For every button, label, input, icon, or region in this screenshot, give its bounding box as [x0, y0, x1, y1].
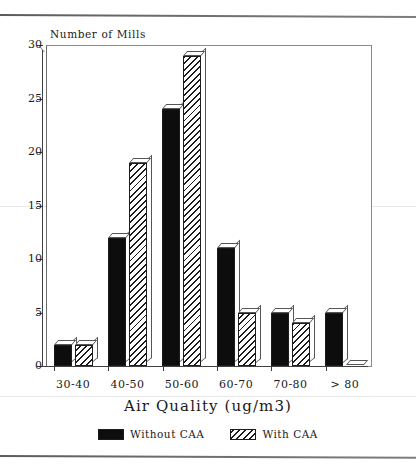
bar-face — [238, 313, 256, 367]
legend-item-with-caa: With CAA — [230, 428, 318, 440]
legend-item-without-caa: Without CAA — [98, 428, 204, 440]
y-tick-label: 25 — [28, 92, 42, 105]
y-tick-label: 10 — [28, 252, 42, 265]
x-axis-title: Air Quality (ug/m3) — [0, 397, 416, 415]
bar-top-face — [75, 340, 97, 345]
x-tick-label-30-40: 30-40 — [56, 378, 90, 391]
x-tick-mark — [108, 366, 109, 371]
bar-top-face — [129, 158, 151, 163]
page-rule-bottom — [0, 455, 416, 459]
chart-legend: Without CAA With CAA — [0, 428, 416, 440]
bar-40-50-without-caa — [108, 238, 126, 366]
y-tick-label: 30 — [28, 38, 42, 51]
bar-face — [217, 248, 235, 366]
bar-face — [292, 323, 310, 366]
bar-top-face — [271, 308, 293, 313]
bar-60-70-with-caa — [238, 313, 256, 367]
bar-60-70-without-caa — [217, 248, 235, 366]
legend-label-with-caa: With CAA — [262, 428, 318, 440]
x-tick-mark — [326, 366, 327, 371]
x-tick-mark — [271, 366, 272, 371]
diagonal-hatch-swatch — [230, 429, 256, 440]
bar-face — [108, 238, 126, 366]
plot-frame — [46, 45, 372, 367]
bar-30-40-without-caa — [54, 345, 72, 366]
y-tick-label: 0 — [35, 359, 42, 372]
bar-face — [162, 109, 180, 366]
y-tick-label: 5 — [35, 306, 42, 319]
y-axis-title: Number of Mills — [50, 28, 146, 40]
bar-top-face — [108, 233, 130, 238]
bar-face — [325, 313, 343, 367]
bar-face — [75, 345, 93, 366]
x-tick-label--80: > 80 — [330, 378, 359, 391]
bar-face — [183, 56, 201, 366]
x-tick-mark — [217, 366, 218, 371]
bar-40-50-with-caa — [129, 163, 147, 366]
x-tick-label-40-50: 40-50 — [110, 378, 144, 391]
x-tick-label-70-80: 70-80 — [273, 378, 307, 391]
y-tick-label: 20 — [28, 145, 42, 158]
x-axis-line — [42, 366, 368, 367]
y-tick-label: 15 — [28, 199, 42, 212]
bar--80-without-caa — [325, 313, 343, 367]
bar-top-face — [54, 340, 76, 345]
plot-area: 051015202530 30-4040-5050-6060-7070-80> … — [46, 45, 372, 367]
bar-side-face — [201, 48, 206, 362]
bar-side-face — [343, 304, 348, 362]
bar-side-face — [256, 304, 261, 362]
x-tick-label-50-60: 50-60 — [165, 378, 199, 391]
bar-side-face — [147, 155, 152, 362]
legend-label-without-caa: Without CAA — [130, 428, 204, 440]
x-tick-mark — [163, 366, 164, 371]
bar--80-with-caa — [346, 365, 364, 366]
bar-face — [271, 313, 289, 367]
bar-face — [129, 163, 147, 366]
bar-30-40-with-caa — [75, 345, 93, 366]
bar-chart-figure: Number of Mills 051015202530 30-4040-505… — [0, 16, 416, 454]
solid-black-swatch — [98, 429, 124, 440]
x-tick-label-60-70: 60-70 — [219, 378, 253, 391]
bar-50-60-with-caa — [183, 56, 201, 366]
bar-70-80-with-caa — [292, 323, 310, 366]
bar-70-80-without-caa — [271, 313, 289, 367]
x-tick-mark — [54, 366, 55, 371]
bar-face — [54, 345, 72, 366]
bar-50-60-without-caa — [162, 109, 180, 366]
bar-top-face — [238, 308, 260, 313]
